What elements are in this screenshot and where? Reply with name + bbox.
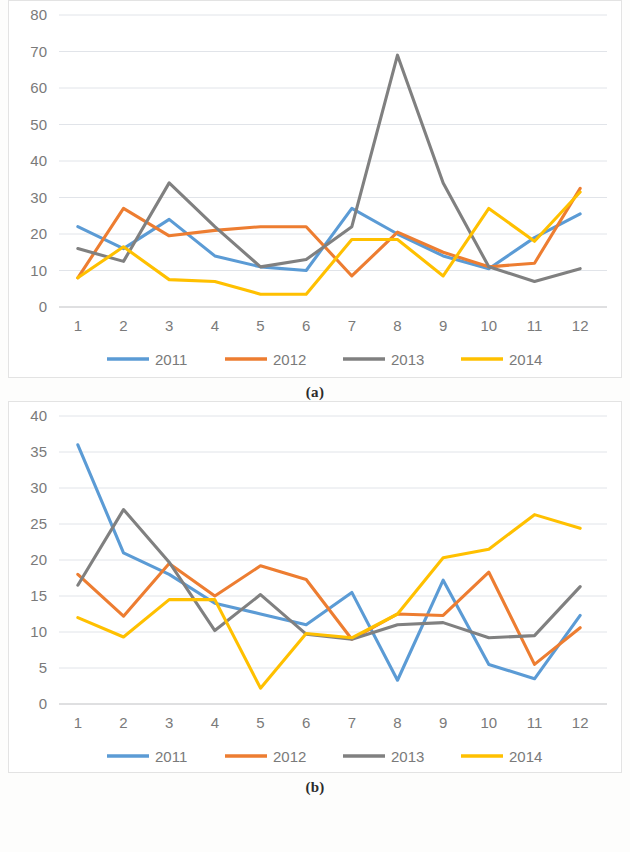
figure-page: 0102030405060708012345678910111220112012… xyxy=(0,0,630,852)
x-axis-tick-label: 12 xyxy=(572,317,589,334)
y-axis-tick-label: 10 xyxy=(30,623,47,640)
chart-a-frame: 0102030405060708012345678910111220112012… xyxy=(8,0,622,378)
subcaption-a: (a) xyxy=(0,378,630,401)
y-axis-tick-label: 40 xyxy=(30,407,47,424)
x-axis-tick-label: 8 xyxy=(393,714,401,731)
y-axis-tick-label: 30 xyxy=(30,189,47,206)
y-axis-tick-label: 5 xyxy=(39,659,47,676)
x-axis-tick-label: 4 xyxy=(211,714,219,731)
legend-label-2012: 2012 xyxy=(273,748,306,765)
y-axis-tick-label: 10 xyxy=(30,262,47,279)
x-axis-tick-label: 8 xyxy=(393,317,401,334)
x-axis-tick-label: 4 xyxy=(211,317,219,334)
y-axis-tick-label: 35 xyxy=(30,443,47,460)
series-line-2013 xyxy=(78,510,580,640)
line-chart-a: 0102030405060708012345678910111220112012… xyxy=(9,1,621,377)
series-line-2011 xyxy=(78,208,580,270)
subcaption-b: (b) xyxy=(0,773,630,796)
x-axis-tick-label: 11 xyxy=(527,714,543,731)
y-axis-tick-label: 0 xyxy=(39,695,47,712)
figure-panel-b: 0510152025303540123456789101112201120122… xyxy=(0,401,630,796)
y-axis-tick-label: 20 xyxy=(30,551,47,568)
x-axis-tick-label: 12 xyxy=(572,714,589,731)
chart-b-frame: 0510152025303540123456789101112201120122… xyxy=(8,401,622,773)
chart-legend: 2011201220132014 xyxy=(107,351,542,368)
x-axis-tick-label: 7 xyxy=(348,714,356,731)
legend-label-2014: 2014 xyxy=(509,351,542,368)
series-line-2012 xyxy=(78,188,580,277)
x-axis-tick-label: 9 xyxy=(439,714,447,731)
y-axis-tick-label: 40 xyxy=(30,152,47,169)
x-axis-tick-label: 5 xyxy=(256,317,264,334)
x-axis-tick-label: 3 xyxy=(165,714,173,731)
y-axis-tick-label: 20 xyxy=(30,225,47,242)
x-axis-tick-label: 1 xyxy=(74,317,82,334)
x-axis-tick-label: 3 xyxy=(165,317,173,334)
y-axis-tick-label: 50 xyxy=(30,116,47,133)
legend-label-2013: 2013 xyxy=(391,351,424,368)
x-axis-tick-label: 5 xyxy=(256,714,264,731)
y-axis-tick-label: 0 xyxy=(39,298,47,315)
x-axis-tick-label: 1 xyxy=(74,714,82,731)
gridlines-group: 0510152025303540 xyxy=(30,407,607,712)
y-axis-tick-label: 60 xyxy=(30,79,47,96)
legend-label-2012: 2012 xyxy=(273,351,306,368)
x-axis-tick-label: 10 xyxy=(480,317,497,334)
x-axis-tick-label: 6 xyxy=(302,317,310,334)
series-line-2013 xyxy=(78,55,580,281)
x-axis-labels-group: 123456789101112 xyxy=(74,714,589,731)
series-group xyxy=(78,55,580,294)
y-axis-tick-label: 15 xyxy=(30,587,47,604)
x-axis-tick-label: 2 xyxy=(119,714,127,731)
legend-label-2013: 2013 xyxy=(391,748,424,765)
legend-label-2011: 2011 xyxy=(155,351,187,368)
y-axis-tick-label: 70 xyxy=(30,43,47,60)
legend-label-2014: 2014 xyxy=(509,748,542,765)
x-axis-labels-group: 123456789101112 xyxy=(74,317,589,334)
x-axis-tick-label: 11 xyxy=(527,317,543,334)
series-line-2011 xyxy=(78,445,580,680)
series-group xyxy=(78,445,580,688)
figure-panel-a: 0102030405060708012345678910111220112012… xyxy=(0,0,630,401)
x-axis-tick-label: 6 xyxy=(302,714,310,731)
x-axis-tick-label: 2 xyxy=(119,317,127,334)
y-axis-tick-label: 25 xyxy=(30,515,47,532)
y-axis-tick-label: 30 xyxy=(30,479,47,496)
chart-legend: 2011201220132014 xyxy=(107,748,542,765)
x-axis-tick-label: 10 xyxy=(480,714,497,731)
legend-label-2011: 2011 xyxy=(155,748,187,765)
line-chart-b: 0510152025303540123456789101112201120122… xyxy=(9,402,621,772)
gridlines-group: 01020304050607080 xyxy=(30,6,607,315)
x-axis-tick-label: 7 xyxy=(348,317,356,334)
y-axis-tick-label: 80 xyxy=(30,6,47,23)
x-axis-tick-label: 9 xyxy=(439,317,447,334)
